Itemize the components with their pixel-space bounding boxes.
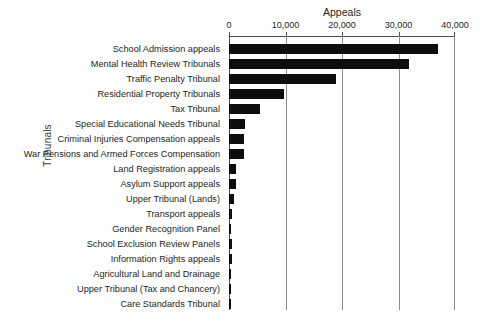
bar bbox=[229, 299, 231, 309]
bar bbox=[229, 254, 232, 264]
x-tick-label-0: 0 bbox=[226, 20, 231, 30]
bar-row bbox=[229, 117, 455, 132]
bar-row bbox=[229, 237, 455, 252]
category-label: Agricultural Land and Drainage bbox=[93, 267, 220, 282]
category-label: Residential Property Tribunals bbox=[97, 87, 220, 102]
bar bbox=[229, 74, 336, 84]
category-label: Tax Tribunal bbox=[170, 102, 220, 117]
bar bbox=[229, 59, 409, 69]
bar bbox=[229, 119, 245, 129]
bar bbox=[229, 179, 236, 189]
bar-row bbox=[229, 102, 455, 117]
bar-row bbox=[229, 177, 455, 192]
bar-row bbox=[229, 162, 455, 177]
bar-row bbox=[229, 207, 455, 222]
bar-row bbox=[229, 42, 455, 57]
bar bbox=[229, 89, 284, 99]
category-label: Criminal Injuries Compensation appeals bbox=[58, 132, 220, 147]
category-label: Upper Tribunal (Tax and Chancery) bbox=[77, 282, 220, 297]
bar-row bbox=[229, 192, 455, 207]
bar bbox=[229, 224, 231, 234]
x-tick-label-20000: 20,000 bbox=[328, 20, 356, 30]
x-tick-label-30000: 30,000 bbox=[385, 20, 413, 30]
category-label: Asylum Support appeals bbox=[120, 177, 220, 192]
x-tick-label-10000: 10,000 bbox=[272, 20, 300, 30]
category-label: School Exclusion Review Panels bbox=[87, 237, 220, 252]
bar bbox=[229, 149, 244, 159]
bar bbox=[229, 164, 236, 174]
category-label: Traffic Penalty Tribunal bbox=[127, 72, 220, 87]
bar bbox=[229, 239, 232, 249]
bar-row bbox=[229, 132, 455, 147]
category-label: Gender Recognition Panel bbox=[112, 222, 220, 237]
bar-row bbox=[229, 147, 455, 162]
bar-chart: Tribunals Appeals 010,00020,00030,00040,… bbox=[0, 0, 480, 325]
bar-row bbox=[229, 222, 455, 237]
plot-area bbox=[229, 36, 455, 310]
x-tick-label-40000: 40,000 bbox=[441, 20, 469, 30]
category-label: Land Registration appeals bbox=[113, 162, 220, 177]
category-label: School Admission appeals bbox=[113, 42, 220, 57]
bar-row bbox=[229, 57, 455, 72]
bar-row bbox=[229, 297, 455, 312]
x-axis-title: Appeals bbox=[229, 6, 455, 18]
category-label: Information Rights appeals bbox=[111, 252, 220, 267]
bar bbox=[229, 104, 260, 114]
category-label: War Pensions and Armed Forces Compensati… bbox=[24, 147, 220, 162]
bar-row bbox=[229, 72, 455, 87]
category-label: Care Standards Tribunal bbox=[120, 297, 220, 312]
bar bbox=[229, 284, 231, 294]
bar-row bbox=[229, 252, 455, 267]
category-label: Mental Health Review Tribunals bbox=[91, 57, 220, 72]
bar-row bbox=[229, 267, 455, 282]
bar bbox=[229, 44, 438, 54]
category-label: Transport appeals bbox=[146, 207, 220, 222]
bar bbox=[229, 134, 244, 144]
bar-series bbox=[229, 36, 455, 310]
bar-row bbox=[229, 87, 455, 102]
category-label: Upper Tribunal (Lands) bbox=[126, 192, 220, 207]
y-axis-category-labels: School Admission appealsMental Health Re… bbox=[0, 36, 225, 310]
category-label: Special Educational Needs Tribunal bbox=[75, 117, 220, 132]
bar bbox=[229, 209, 232, 219]
bar bbox=[229, 194, 234, 204]
bar bbox=[229, 269, 231, 279]
bar-row bbox=[229, 282, 455, 297]
